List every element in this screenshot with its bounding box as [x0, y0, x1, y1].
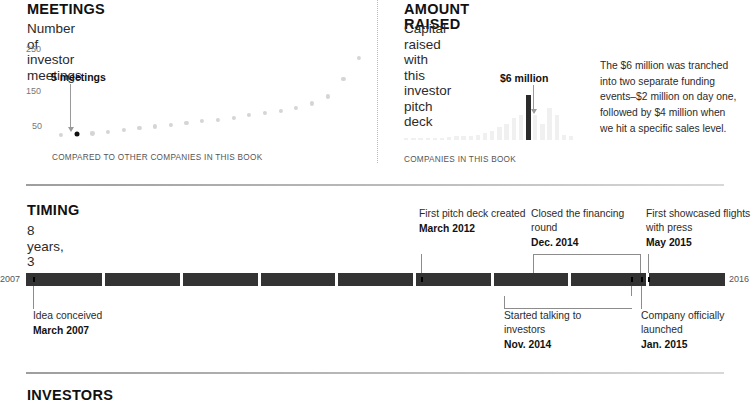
- event-text: Idea conceived: [33, 310, 102, 321]
- bar: [490, 131, 494, 140]
- event-text: Started talking to investors: [504, 310, 581, 335]
- y-tick-150: 150: [26, 86, 41, 96]
- event-first-pitch-deck: First pitch deck created March 2012: [419, 207, 527, 236]
- event-date: Jan. 2015: [641, 338, 749, 352]
- event-leader-2b: [640, 254, 641, 274]
- meetings-title: MEETINGS: [27, 2, 105, 17]
- scatter-point: [169, 123, 173, 127]
- scatter-point: [59, 133, 63, 137]
- bar: [483, 133, 487, 140]
- timeline-marker: [33, 277, 35, 282]
- scatter-point: [341, 77, 345, 81]
- event-leader-4: [33, 286, 34, 309]
- event-closed-financing: Closed the financing round Dec. 2014: [531, 207, 639, 250]
- bar: [418, 138, 422, 140]
- scatter-point: [184, 121, 188, 125]
- scatter-point-highlight: [74, 132, 79, 137]
- y-tick-250: 250: [26, 44, 41, 54]
- scatter-point: [106, 130, 110, 134]
- event-text: First showcased flights with press: [646, 208, 750, 233]
- scatter-point: [294, 106, 298, 110]
- timeline-year-gap: [258, 273, 261, 286]
- bar: [512, 118, 516, 140]
- divider-bottom: [26, 372, 724, 374]
- scatter-point: [122, 128, 126, 132]
- event-date: March 2007: [33, 324, 141, 338]
- bar: [454, 136, 458, 140]
- amount-x-caption: COMPANIES IN THIS BOOK: [404, 155, 516, 164]
- scatter-point: [247, 113, 251, 117]
- event-leader-5a: [631, 286, 632, 296]
- event-started-talking: Started talking to investors Nov. 2014: [504, 309, 612, 352]
- bar: [411, 138, 415, 140]
- scatter-point: [278, 109, 282, 113]
- timeline-start-year: 2007: [0, 274, 20, 284]
- event-leader-5: [504, 296, 632, 309]
- bar: [562, 135, 566, 140]
- event-date: Nov. 2014: [504, 338, 612, 352]
- timeline-marker: [631, 277, 633, 282]
- bar: [547, 108, 551, 140]
- event-first-showcased: First showcased flights with press May 2…: [646, 207, 754, 250]
- bar: [404, 138, 408, 140]
- bar: [555, 115, 559, 140]
- y-tick-50: 50: [32, 121, 42, 131]
- event-leader-1: [421, 254, 422, 274]
- timeline-year-gap: [180, 273, 183, 286]
- timeline-year-gap: [413, 273, 416, 286]
- scatter-point: [200, 119, 204, 123]
- panel-divider: [377, 0, 378, 163]
- scatter-point: [231, 116, 235, 120]
- timeline-year-gap: [102, 273, 105, 286]
- bar: [426, 138, 430, 140]
- bar: [440, 138, 444, 140]
- timeline-year-gap: [568, 273, 571, 286]
- amount-note: The $6 million was tranched into two sep…: [600, 58, 740, 136]
- amount-callout-label: $6 million: [500, 72, 548, 84]
- scatter-point: [216, 118, 220, 122]
- timeline-marker: [421, 277, 423, 282]
- scatter-point: [310, 101, 314, 105]
- event-leader-2: [533, 254, 641, 275]
- bar: [433, 138, 437, 140]
- scatter-point: [153, 124, 157, 128]
- bar: [540, 124, 544, 140]
- bar: [569, 136, 573, 140]
- bar-highlight: [526, 95, 532, 140]
- event-company-launched: Company officially launched Jan. 2015: [641, 309, 749, 352]
- bar: [476, 135, 480, 140]
- divider-top: [26, 184, 724, 186]
- bar: [497, 127, 501, 140]
- timeline-year-gap: [335, 273, 338, 286]
- bar: [469, 136, 473, 140]
- event-text: First pitch deck created: [419, 208, 525, 219]
- event-date: Dec. 2014: [531, 236, 639, 250]
- event-date: March 2012: [419, 222, 527, 236]
- event-text: Company officially launched: [641, 310, 724, 335]
- bar: [504, 124, 508, 140]
- scatter-point: [326, 94, 330, 98]
- meetings-x-caption: COMPARED TO OTHER COMPANIES IN THIS BOOK: [52, 153, 262, 162]
- timeline-year-gap: [491, 273, 494, 286]
- meetings-scatter-plot: [55, 44, 365, 136]
- scatter-point: [357, 56, 361, 60]
- timing-title: TIMING: [27, 203, 79, 218]
- scatter-point: [263, 111, 267, 115]
- timeline-marker: [648, 277, 650, 282]
- timeline-bar: [26, 273, 725, 286]
- bar: [519, 115, 523, 140]
- event-text: Closed the financing round: [531, 208, 624, 233]
- bar: [461, 136, 465, 140]
- amount-bar-chart: [404, 95, 576, 140]
- bar: [533, 115, 537, 140]
- timeline-end-year: 2016: [729, 274, 749, 284]
- event-leader-6: [641, 286, 642, 309]
- bar: [447, 137, 451, 140]
- event-idea-conceived: Idea conceived March 2007: [33, 309, 141, 338]
- scatter-point: [90, 131, 94, 135]
- investors-title: INVESTORS: [27, 388, 113, 403]
- scatter-point: [137, 126, 141, 130]
- timeline-marker: [641, 277, 643, 282]
- event-leader-3: [648, 254, 649, 274]
- event-date: May 2015: [646, 236, 754, 250]
